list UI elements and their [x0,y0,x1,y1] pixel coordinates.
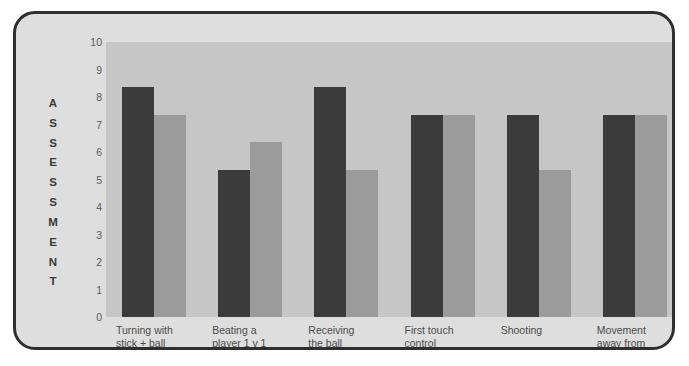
category-label: Beating a player 1 v 1 [202,324,298,350]
y-axis-title-letter: S [49,177,57,189]
y-axis-tick: 9 [78,64,102,76]
y-axis-tick: 6 [78,146,102,158]
y-axis-tick: 5 [78,174,102,186]
bar-series-2 [635,115,667,317]
bar-groups [106,42,675,317]
y-axis-title-letter: S [49,118,57,130]
y-axis-title-letter: N [49,257,57,269]
bar-series-2 [443,115,475,317]
bar-series-1 [218,170,250,317]
bar-series-1 [314,87,346,317]
bar-series-1 [603,115,635,317]
bar-series-1 [507,115,539,317]
category-label: Receiving the ball [298,324,394,350]
y-axis-tick: 0 [78,311,102,323]
y-axis-tick: 2 [78,256,102,268]
y-axis-tick: 10 [78,36,102,48]
bar-series-2 [250,142,282,317]
y-axis-title-letter: E [49,237,57,249]
bar-series-2 [346,170,378,317]
y-axis-tick: 4 [78,201,102,213]
bar-group [202,42,298,317]
chart-screenshot: ASSESSMENT 109876543210 Turning with sti… [0,0,689,366]
y-axis-title-letter: T [49,276,56,288]
bar-series-1 [411,115,443,317]
y-axis-title-letter: A [49,98,57,110]
bar-series-1 [122,87,154,317]
y-axis-tick: 3 [78,229,102,241]
y-axis-title-letter: M [48,217,58,229]
category-label: First touch control [395,324,491,350]
bar-group [106,42,202,317]
category-label: Movement away from the ball [587,324,675,350]
y-axis-title-letter: S [49,138,57,150]
bar-group [587,42,675,317]
y-axis-tick-labels: 109876543210 [78,40,102,323]
category-label: Turning with stick + ball [106,324,202,350]
bar-group [395,42,491,317]
bar-series-2 [154,115,186,317]
y-axis-tick: 1 [78,284,102,296]
bar-group [491,42,587,317]
category-label: Shooting [491,324,587,350]
bar-group [298,42,394,317]
x-axis-category-labels: Turning with stick + ballBeating a playe… [106,324,675,350]
bar-series-2 [539,170,571,317]
y-axis-title: ASSESSMENT [41,98,65,288]
chart-frame: ASSESSMENT 109876543210 Turning with sti… [13,11,675,350]
y-axis-title-letter: S [49,197,57,209]
y-axis-tick: 7 [78,119,102,131]
y-axis-title-letter: E [49,157,57,169]
y-axis-tick: 8 [78,91,102,103]
plot-area [106,42,675,317]
